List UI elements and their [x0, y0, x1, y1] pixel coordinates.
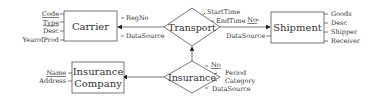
attr-no-transport: No: [247, 16, 257, 24]
entity-carrier[interactable]: Carrier: [64, 11, 117, 41]
insurance-company-attributes: Name Address: [38, 69, 72, 85]
attr-regno: RegNo: [126, 14, 149, 22]
attr-desc-shipment: Desc: [331, 19, 347, 27]
attr-shipper: Shipper: [331, 28, 358, 36]
attr-receiver: Receiver: [331, 37, 361, 45]
attr-datasource-insurance: DataSource: [212, 85, 251, 93]
attr-name: Name: [46, 69, 66, 77]
attr-datasource-right: DataSource: [226, 32, 265, 40]
attr-yearofprod: YearofProd: [22, 36, 59, 44]
carrier-attributes: Code Type Desc YearofProd: [22, 10, 64, 44]
entity-shipment[interactable]: Shipment: [271, 12, 324, 43]
attr-address: Address: [38, 77, 66, 85]
attr-category: Category: [225, 77, 255, 85]
relationship-transport-label: Transport: [168, 22, 216, 33]
shipment-attributes: Goods Desc Shipper Receiver: [324, 10, 361, 45]
attr-endtime: EndTime: [216, 17, 246, 25]
attr-datasource-left: DataSource: [126, 32, 165, 40]
er-diagram: Carrier Code Type Desc YearofProd Transp…: [0, 0, 377, 102]
entity-insurance-company[interactable]: Insurance Company: [72, 62, 124, 93]
relationship-insurance-label: Insurance: [168, 72, 217, 83]
attr-period: Period: [225, 69, 246, 77]
entity-shipment-label: Shipment: [273, 22, 322, 33]
attr-desc: Desc: [43, 27, 59, 35]
entity-insurance-company-label-1: Insurance: [73, 66, 124, 77]
attr-starttime: StartTime: [207, 8, 240, 16]
attr-type: Type: [43, 19, 59, 27]
entity-insurance-company-label-2: Company: [74, 78, 122, 89]
entity-carrier-label: Carrier: [72, 21, 109, 32]
attr-goods: Goods: [331, 10, 352, 18]
attr-no-insurance: No: [211, 61, 221, 69]
attr-code: Code: [42, 10, 59, 18]
